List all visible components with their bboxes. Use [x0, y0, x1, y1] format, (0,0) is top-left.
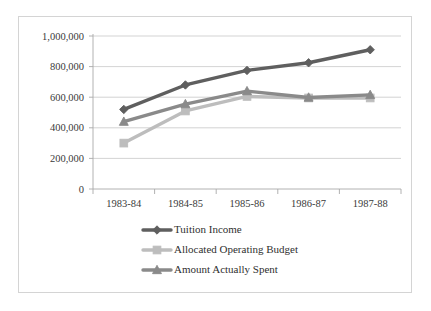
- data-series-group: [119, 46, 374, 147]
- series-line: [124, 96, 370, 143]
- x-axis-tick-label: 1984-85: [168, 198, 203, 209]
- legend-label: Amount Actually Spent: [174, 263, 278, 275]
- data-point-marker-diamond: [304, 59, 312, 67]
- data-point-marker-diamond: [153, 226, 161, 234]
- y-axis-tick-label: 600,000: [50, 92, 84, 103]
- legend-label: Tuition Income: [174, 223, 242, 235]
- x-axis-tick-label: 1985-86: [230, 198, 265, 209]
- y-axis-tick-label: 400,000: [50, 122, 84, 133]
- y-axis-tick-label: 1,000,000: [42, 31, 84, 42]
- data-point-marker-diamond: [243, 66, 251, 74]
- line-chart: 1,000,000800,000600,000400,000200,0000 1…: [19, 17, 411, 292]
- y-axis-tick-label: 200,000: [50, 153, 84, 164]
- x-axis-tick-label: 1983-84: [106, 198, 142, 209]
- legend-item[interactable]: Allocated Operating Budget: [143, 243, 298, 255]
- legend-item[interactable]: Tuition Income: [143, 223, 242, 235]
- chart-figure: 1,000,000800,000600,000400,000200,0000 1…: [18, 16, 412, 293]
- x-axis-tick-label: 1987-88: [353, 198, 388, 209]
- legend-label: Allocated Operating Budget: [174, 243, 298, 255]
- x-axis-tick-label: 1986-87: [291, 198, 326, 209]
- x-axis-group: [93, 34, 401, 194]
- legend-item[interactable]: Amount Actually Spent: [143, 263, 278, 275]
- y-axis-tick-labels-group: 1,000,000800,000600,000400,000200,0000: [42, 31, 84, 195]
- series-allocated-operating-budget: [120, 93, 374, 147]
- x-axis-tick-labels-group: 1983-841984-851985-861986-871987-88: [106, 198, 387, 209]
- series-tuition-income: [120, 46, 375, 114]
- y-axis-tick-label: 800,000: [50, 61, 84, 72]
- data-point-marker-diamond: [366, 46, 374, 54]
- series-amount-actually-spent: [119, 86, 374, 125]
- y-axis-ticks-group: [89, 36, 93, 189]
- data-point-marker-square: [182, 107, 190, 115]
- data-point-marker-square: [153, 246, 161, 254]
- data-point-marker-square: [120, 139, 128, 147]
- chart-legend: Tuition IncomeAllocated Operating Budget…: [143, 223, 298, 275]
- y-axis-tick-label: 0: [79, 184, 84, 195]
